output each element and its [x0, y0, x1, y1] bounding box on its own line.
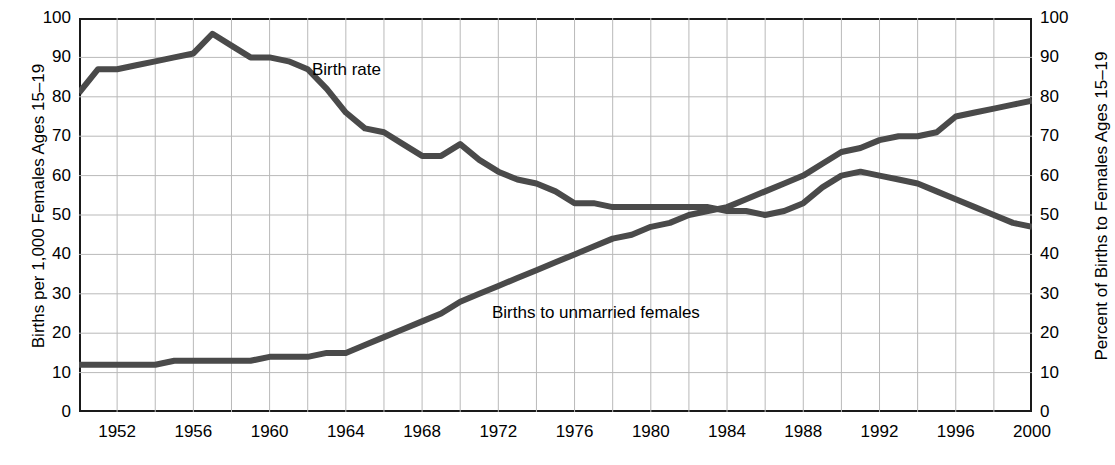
- y-tick-label-left-20: 20: [31, 323, 71, 343]
- y-tick-label-right-40: 40: [1040, 244, 1080, 264]
- x-tick-label-1972: 1972: [468, 421, 528, 443]
- plot-canvas: [79, 18, 1032, 412]
- y-tick-label-right-0: 0: [1040, 402, 1080, 422]
- y-tick-label-right-80: 80: [1040, 87, 1080, 107]
- y-tick-label-right-10: 10: [1040, 363, 1080, 383]
- y-tick-label-right-20: 20: [1040, 323, 1080, 343]
- y-axis-title-right: Percent of Births to Females Ages 15–19: [1089, 0, 1115, 412]
- x-tick-label-1952: 1952: [87, 421, 147, 443]
- series-label-birth-rate: Birth rate: [312, 60, 381, 80]
- y-tick-label-left-100: 100: [31, 8, 71, 28]
- gridlines: [79, 18, 1032, 412]
- x-tick-label-1984: 1984: [697, 421, 757, 443]
- x-tick-label-1960: 1960: [240, 421, 300, 443]
- y-tick-label-right-60: 60: [1040, 166, 1080, 186]
- y-tick-label-right-100: 100: [1040, 8, 1080, 28]
- y-tick-label-left-60: 60: [31, 166, 71, 186]
- y-tick-label-left-40: 40: [31, 244, 71, 264]
- x-tick-label-1964: 1964: [316, 421, 376, 443]
- series-label-births-to-unmarried-females: Births to unmarried females: [492, 303, 700, 323]
- y-tick-label-left-30: 30: [31, 284, 71, 304]
- series-line-births-to-unmarried-females: [79, 101, 1032, 365]
- y-tick-label-right-90: 90: [1040, 47, 1080, 67]
- chart-figure: Births per 1,000 Females Ages 15–19 Perc…: [0, 0, 1115, 465]
- y-tick-label-left-0: 0: [31, 402, 71, 422]
- x-tick-label-1992: 1992: [850, 421, 910, 443]
- y-tick-label-left-10: 10: [31, 363, 71, 383]
- x-tick-label-1968: 1968: [392, 421, 452, 443]
- x-tick-label-2000: 2000: [1002, 421, 1062, 443]
- y-tick-label-right-50: 50: [1040, 205, 1080, 225]
- x-tick-label-1976: 1976: [545, 421, 605, 443]
- y-tick-label-right-30: 30: [1040, 284, 1080, 304]
- x-tick-label-1980: 1980: [621, 421, 681, 443]
- y-tick-label-left-50: 50: [31, 205, 71, 225]
- y-tick-label-right-70: 70: [1040, 126, 1080, 146]
- x-tick-label-1988: 1988: [773, 421, 833, 443]
- x-tick-label-1996: 1996: [926, 421, 986, 443]
- y-tick-label-left-80: 80: [31, 87, 71, 107]
- series-line-birth-rate: [79, 34, 1032, 227]
- y-tick-label-left-90: 90: [31, 47, 71, 67]
- x-tick-label-1956: 1956: [163, 421, 223, 443]
- y-tick-label-left-70: 70: [31, 126, 71, 146]
